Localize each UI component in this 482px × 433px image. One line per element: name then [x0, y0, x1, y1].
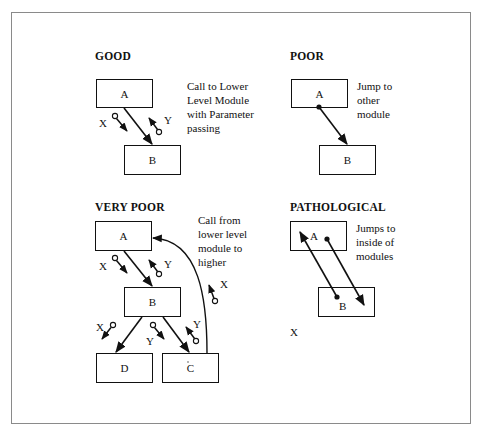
very-poor-param-x-ab-icon — [112, 255, 127, 273]
very-poor-param-y-bc-up-icon — [186, 327, 199, 344]
very-poor-param-y-bc-down-icon — [150, 322, 164, 339]
very-poor-param-x-bd-icon — [102, 322, 116, 339]
very-poor-c-mark — [187, 361, 189, 363]
pathological-jump-a-to-b-arrow — [324, 236, 364, 305]
very-poor-call-bd-arrow — [116, 317, 142, 352]
very-poor-param-y-ab-icon — [149, 260, 162, 277]
good-param-y-icon — [149, 118, 162, 135]
pathological-jump-b-to-a-arrow — [300, 232, 340, 300]
diagram-arrows — [0, 0, 482, 433]
very-poor-param-x-ca-icon — [209, 285, 218, 304]
very-poor-call-ab-arrow — [124, 251, 152, 286]
poor-jump-arrow — [316, 104, 347, 144]
good-call-arrow — [124, 108, 152, 144]
good-param-x-icon — [112, 113, 127, 131]
very-poor-call-bc-arrow — [163, 317, 189, 352]
